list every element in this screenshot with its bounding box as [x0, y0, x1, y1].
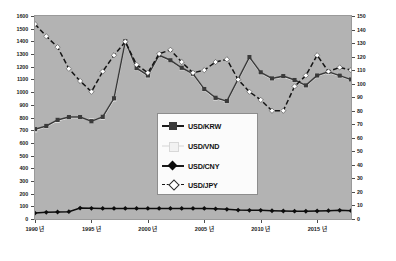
data-point: [35, 211, 37, 216]
data-point: [281, 108, 286, 113]
right-axis-tick-mark: [352, 178, 355, 179]
data-point: [348, 68, 351, 73]
legend-item-usd-krw[interactable]: USD/KRW: [158, 116, 259, 136]
data-point: [292, 78, 296, 82]
data-point: [134, 206, 139, 211]
data-point: [225, 99, 229, 103]
legend-label-usd-cny: USD/CNY: [188, 162, 219, 171]
left-axis-tick-label: 600: [2, 140, 28, 146]
data-point: [78, 115, 82, 119]
right-axis-tick-mark: [352, 151, 355, 152]
left-axis-tick-label: 400: [2, 165, 28, 171]
right-axis-tick-mark: [352, 192, 355, 193]
data-point: [44, 210, 49, 215]
x-axis-tick-label: 2005 년: [184, 226, 224, 233]
data-point: [292, 209, 297, 214]
data-point: [78, 206, 83, 211]
data-point: [55, 210, 60, 215]
legend-item-usd-cny[interactable]: USD/CNY: [158, 156, 259, 176]
data-point: [213, 96, 217, 100]
data-point: [281, 74, 285, 78]
data-point: [157, 206, 162, 211]
left-axis-tick-label: 200: [2, 191, 28, 197]
data-point: [35, 127, 37, 131]
right-axis-tick-label: 60: [357, 135, 383, 141]
data-point: [304, 83, 308, 87]
data-point: [315, 73, 319, 77]
data-point: [213, 206, 218, 211]
right-axis-tick-mark: [352, 43, 355, 44]
legend-item-usd-jpy[interactable]: USD/JPY: [158, 175, 259, 195]
data-point: [258, 208, 263, 213]
left-axis-tick-label: 1300: [2, 51, 28, 57]
x-axis-tick-mark: [204, 220, 205, 223]
right-axis-tick-label: 30: [357, 175, 383, 181]
right-axis-tick-label: 120: [357, 54, 383, 60]
right-axis-tick-label: 50: [357, 148, 383, 154]
data-point: [303, 209, 308, 214]
x-axis-tick-mark: [317, 220, 318, 223]
data-point: [281, 209, 286, 214]
legend: USD/KRW USD/VND USD/CNY USD/JPY: [157, 113, 258, 195]
data-point: [89, 206, 94, 211]
data-point: [337, 65, 342, 70]
series-usd-jpy: [35, 22, 351, 114]
legend-label-usd-jpy: USD/JPY: [188, 181, 218, 190]
right-axis-tick-label: 100: [357, 81, 383, 87]
right-axis-tick-label: 130: [357, 40, 383, 46]
data-point: [247, 208, 252, 213]
left-axis-tick-label: 1400: [2, 38, 28, 44]
x-axis-tick-mark: [261, 220, 262, 223]
right-axis-tick-label: 150: [357, 13, 383, 19]
left-axis-tick-label: 500: [2, 153, 28, 159]
right-axis-tick-mark: [352, 84, 355, 85]
x-axis-tick-label: 2010 년: [241, 226, 281, 233]
data-point: [349, 77, 351, 81]
left-axis-tick-label: 1500: [2, 26, 28, 32]
right-axis-tick-mark: [352, 165, 355, 166]
legend-marker-usd-jpy: [158, 178, 188, 192]
data-point: [337, 208, 342, 213]
legend-item-usd-vnd[interactable]: USD/VND: [158, 136, 259, 156]
data-point: [315, 209, 320, 214]
legend-label-usd-krw: USD/KRW: [188, 122, 221, 131]
x-axis-tick-label: 2000 년: [128, 226, 168, 233]
data-point: [292, 84, 297, 89]
right-axis-tick-mark: [352, 205, 355, 206]
data-point: [179, 206, 184, 211]
data-point: [44, 124, 48, 128]
data-point: [180, 66, 184, 70]
legend-label-usd-vnd: USD/VND: [188, 142, 219, 151]
data-point: [168, 58, 172, 62]
exchange-rate-chart: 0100200300400500600700800900100011001200…: [0, 0, 396, 261]
x-axis-tick-mark: [91, 220, 92, 223]
data-point: [224, 207, 229, 212]
data-point: [168, 47, 173, 52]
right-axis-tick-label: 0: [357, 216, 383, 222]
right-axis-tick-mark: [352, 57, 355, 58]
data-point: [270, 76, 274, 80]
x-axis-tick-label: 1990 년: [15, 226, 55, 233]
right-axis-tick-mark: [352, 70, 355, 71]
legend-marker-usd-krw: [158, 119, 188, 133]
left-axis-tick-label: 1200: [2, 64, 28, 70]
right-axis-tick-label: 10: [357, 202, 383, 208]
data-point: [55, 118, 59, 122]
right-axis-tick-mark: [352, 16, 355, 17]
right-axis-tick-label: 90: [357, 94, 383, 100]
data-point: [168, 206, 173, 211]
data-point: [100, 206, 105, 211]
right-axis-tick-mark: [352, 111, 355, 112]
left-axis-tick-label: 0: [2, 216, 28, 222]
left-axis-tick-label: 1100: [2, 76, 28, 82]
series-usd-cny: [35, 206, 351, 216]
data-point: [66, 209, 71, 214]
x-axis-tick-mark: [35, 220, 36, 223]
right-axis-tick-label: 70: [357, 121, 383, 127]
left-axis-tick-label: 1600: [2, 13, 28, 19]
data-point: [349, 208, 351, 213]
data-point: [270, 208, 275, 213]
data-point: [191, 206, 196, 211]
right-axis-tick-mark: [352, 138, 355, 139]
right-axis-tick-label: 140: [357, 27, 383, 33]
